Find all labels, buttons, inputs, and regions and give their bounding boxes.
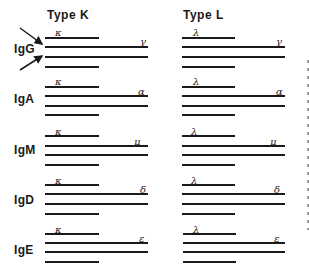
class-label-igm: IgM — [14, 143, 36, 157]
heavy-chain-line — [182, 193, 285, 195]
light-chain-line — [45, 135, 99, 137]
light-chain-line — [183, 261, 236, 263]
heavy-chain-line — [45, 242, 148, 244]
heavy-chain-line — [45, 145, 148, 147]
heavy-chain-line — [45, 251, 148, 253]
light-chain-line — [182, 135, 235, 137]
light-chain-line — [45, 164, 99, 166]
heavy-chain-line — [183, 242, 285, 244]
light-chain-line — [182, 114, 235, 116]
light-chain-line — [45, 261, 99, 263]
heavy-chain-line — [182, 46, 285, 48]
light-chain-line — [182, 37, 235, 39]
heavy-chain-line — [45, 154, 148, 156]
light-chain-line — [182, 184, 235, 186]
heavy-chain-line — [45, 56, 148, 58]
column-title-type-l: Type L — [183, 8, 224, 22]
cropped-edge-text — [307, 60, 309, 230]
heavy-chain-line — [45, 203, 148, 205]
light-chain-line — [45, 233, 99, 235]
heavy-chain-line — [45, 46, 148, 48]
light-chain-line — [182, 164, 235, 166]
light-chain-line — [45, 184, 99, 186]
light-chain-line — [182, 86, 235, 88]
light-chain-line — [183, 233, 236, 235]
light-chain-line — [182, 66, 235, 68]
light-chain-line — [45, 213, 99, 215]
heavy-chain-line — [182, 95, 285, 97]
light-chain-line — [182, 213, 235, 215]
class-label-ige: IgE — [14, 243, 34, 257]
heavy-chain-line — [45, 105, 148, 107]
heavy-chain-line — [45, 95, 148, 97]
heavy-chain-line — [45, 193, 148, 195]
heavy-chain-line — [182, 203, 285, 205]
light-chain-line — [45, 66, 99, 68]
class-label-iga: IgA — [14, 92, 34, 106]
arrow-icon — [20, 56, 42, 70]
heavy-chain-line — [182, 145, 285, 147]
class-label-igg: IgG — [14, 42, 35, 56]
arrow-icons — [0, 0, 60, 80]
light-chain-line — [45, 37, 99, 39]
heavy-chain-line — [182, 154, 285, 156]
heavy-chain-line — [183, 251, 285, 253]
heavy-chain-line — [182, 56, 285, 58]
heavy-chain-line — [182, 105, 285, 107]
light-chain-line — [45, 86, 99, 88]
class-label-igd: IgD — [14, 193, 34, 207]
light-chain-line — [45, 114, 99, 116]
